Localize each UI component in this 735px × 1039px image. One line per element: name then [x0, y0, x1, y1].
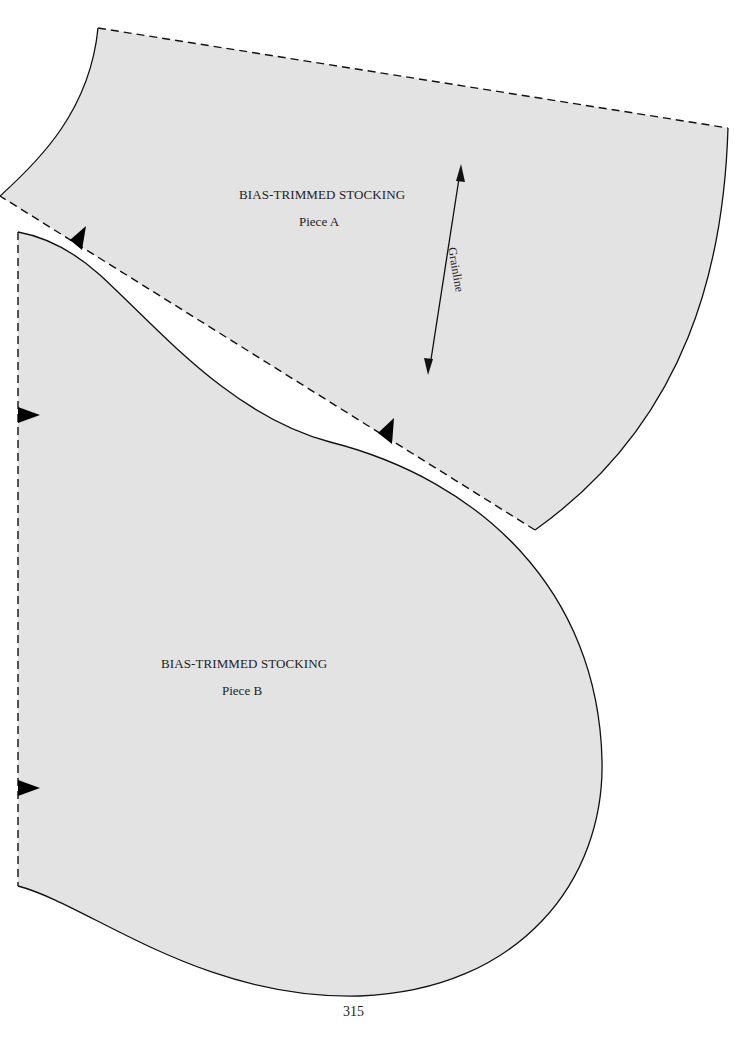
piece-b-title: BIAS-TRIMMED STOCKING: [161, 656, 327, 672]
sewing-pattern-sheet: [0, 0, 735, 1039]
piece-a-subtitle: Piece A: [299, 214, 339, 230]
piece-a-title: BIAS-TRIMMED STOCKING: [239, 187, 405, 203]
piece-b-subtitle: Piece B: [222, 683, 262, 699]
page-number: 315: [343, 1004, 364, 1020]
